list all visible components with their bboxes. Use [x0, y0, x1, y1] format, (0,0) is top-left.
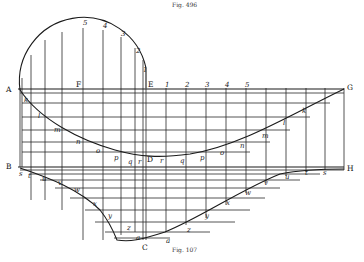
label-point-d: D: [147, 155, 153, 164]
caption-bottom: Fig. 107: [172, 246, 197, 254]
caption-top: Fig. 496: [172, 1, 197, 9]
upper-label-k-right: k: [302, 107, 306, 115]
scale-label-3: 3: [205, 81, 210, 89]
lower-label-z-right: z: [186, 226, 191, 234]
upper-label-o-left: o: [96, 147, 100, 155]
label-point-f: F: [76, 80, 81, 89]
lower-label-v-left: v: [58, 179, 62, 187]
lower-label-z-left: z: [126, 224, 131, 232]
upper-label-n-right: n: [240, 142, 245, 150]
scale-label-1: 1: [165, 81, 169, 89]
lower-label-t-right: t: [305, 169, 308, 177]
lower-label-a-left: a: [136, 234, 140, 242]
lower-label-u-right: u: [285, 173, 290, 181]
label-point-e: E: [148, 80, 153, 89]
upper-label-k-left: k: [24, 96, 28, 104]
label-point-b: B: [6, 162, 12, 171]
scale-label-2: 2: [184, 81, 190, 89]
upper-label-q-left: q: [128, 158, 133, 166]
upper-label-l-left: l: [38, 112, 40, 120]
circle-label-4: 4: [102, 22, 107, 30]
lower-label-x-right: x: [226, 199, 230, 207]
upper-label-n-left: n: [76, 138, 81, 146]
upper-label-l-right: l: [283, 119, 285, 127]
lower-label-u-left: u: [42, 175, 47, 183]
circle-label-3: 3: [121, 30, 126, 38]
lower-label-x-left: x: [93, 200, 97, 208]
circle-label-2: 2: [135, 47, 141, 55]
lower-label-s-left: s: [19, 170, 23, 178]
label-point-a: A: [5, 85, 12, 94]
lower-label-w-right: w: [245, 189, 251, 197]
lower-label-a-right: a: [166, 237, 170, 245]
upper-label-o-right: o: [220, 149, 224, 157]
upper-curve: [20, 89, 344, 156]
lower-label-t-left: t: [28, 172, 31, 180]
vertical-grid-lines: [20, 28, 344, 240]
circle-label-1: 1: [143, 66, 147, 74]
label-point-h: H: [347, 164, 354, 173]
upper-label-r-left: r: [138, 158, 142, 166]
circle-label-5: 5: [83, 19, 88, 27]
upper-label-p-right: p: [200, 154, 205, 162]
upper-label-m-right: m: [262, 132, 269, 140]
lower-label-s-right: s: [323, 169, 327, 177]
scale-label-4: 4: [224, 81, 229, 89]
label-point-g: G: [347, 83, 353, 92]
upper-label-r-right: r: [160, 157, 164, 165]
upper-label-q-right: q: [180, 157, 185, 165]
lower-label-v-right: v: [264, 179, 268, 187]
engineering-diagram: Fig. 496 Fig. 107: [0, 0, 364, 262]
lower-label-y-left: y: [107, 212, 113, 220]
lower-label-y-right: y: [204, 212, 210, 220]
upper-label-p-left: p: [114, 154, 119, 162]
label-point-c: C: [142, 243, 148, 252]
upper-label-m-left: m: [54, 126, 61, 134]
lower-label-w-left: w: [74, 186, 80, 194]
lower-curve: [20, 168, 344, 241]
scale-label-5: 5: [245, 81, 250, 89]
